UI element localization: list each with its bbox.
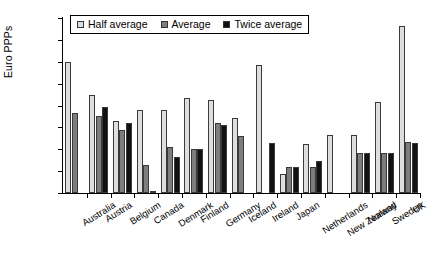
bar-finland-half-average — [184, 98, 190, 193]
bar-iceland-half-average — [232, 118, 238, 193]
bar-group — [184, 18, 203, 193]
bar-new-zealand-half-average — [327, 135, 333, 193]
x-axis-tick-mark — [420, 194, 421, 198]
x-axis-tick-mark — [253, 194, 254, 198]
bar-group — [161, 18, 180, 193]
bar-belgium-half-average — [113, 121, 119, 193]
x-axis-tick-mark — [158, 194, 159, 198]
bar-austria-twice-average — [102, 107, 108, 193]
bar-group — [232, 18, 251, 193]
average-swatch-icon — [161, 21, 168, 28]
bar-group — [327, 18, 346, 193]
bar-germany-average — [215, 123, 221, 193]
bar-uk-average — [405, 142, 411, 193]
half-average-swatch-icon — [77, 21, 84, 28]
bar-denmark-half-average — [161, 110, 167, 193]
bar-sweden-twice-average — [388, 153, 394, 193]
bar-group — [399, 18, 418, 193]
bar-canada-twice-average — [150, 191, 156, 193]
legend-label: Twice average — [234, 19, 302, 30]
x-axis-tick-mark — [349, 194, 350, 198]
x-axis-tick-mark — [396, 194, 397, 198]
bar-chart: Euro PPPs 0100200300400500600700800 Aust… — [0, 0, 432, 266]
legend-item-twice-average[interactable]: Twice average — [223, 19, 302, 30]
x-axis-line — [62, 193, 421, 194]
bar-finland-average — [191, 149, 197, 193]
bar-group — [256, 18, 275, 193]
bar-germany-twice-average — [221, 125, 227, 193]
x-axis-tick-mark — [325, 194, 326, 198]
chart-legend: Half averageAverageTwice average — [70, 15, 309, 34]
x-axis-tick-mark — [134, 194, 135, 198]
bar-australia-half-average — [65, 62, 71, 193]
bar-austria-half-average — [89, 95, 95, 193]
bar-austria-average — [96, 116, 102, 193]
plot-area — [63, 18, 420, 193]
bar-group — [208, 18, 227, 193]
bar-netherlands-twice-average — [316, 161, 322, 193]
bar-canada-average — [143, 165, 149, 193]
bar-denmark-twice-average — [174, 157, 180, 193]
y-axis-title: Euro PPPs — [2, 0, 16, 78]
x-axis-tick-mark — [277, 194, 278, 198]
bar-belgium-average — [119, 130, 125, 193]
bar-iceland-average — [238, 136, 244, 193]
x-axis-tick-mark — [301, 194, 302, 198]
bar-uk-half-average — [399, 26, 405, 193]
x-axis-tick-mark — [230, 194, 231, 198]
legend-label: Half average — [88, 19, 148, 30]
bar-japan-twice-average — [293, 167, 299, 193]
bar-group — [89, 18, 108, 193]
bar-group — [113, 18, 132, 193]
bar-ireland-twice-average — [269, 143, 275, 193]
bar-group — [375, 18, 394, 193]
bar-sweden-average — [381, 153, 387, 193]
x-axis-tick-mark — [206, 194, 207, 198]
x-axis-tick-mark — [372, 194, 373, 198]
bar-ireland-half-average — [256, 65, 262, 193]
legend-label: Average — [172, 19, 211, 30]
bar-norway-average — [357, 153, 363, 193]
bar-norway-half-average — [351, 135, 357, 193]
y-axis-tick-mark — [58, 193, 63, 194]
legend-item-half-average[interactable]: Half average — [77, 19, 148, 30]
bar-japan-half-average — [280, 174, 286, 193]
legend-item-average[interactable]: Average — [161, 19, 211, 30]
bar-group — [351, 18, 370, 193]
bar-netherlands-half-average — [303, 144, 309, 193]
bar-denmark-average — [167, 147, 173, 193]
bar-group — [280, 18, 299, 193]
x-axis-tick-mark — [182, 194, 183, 198]
x-axis-tick-mark — [111, 194, 112, 198]
bar-group — [137, 18, 156, 193]
bar-group — [65, 18, 84, 193]
bar-belgium-twice-average — [126, 123, 132, 193]
bar-germany-half-average — [208, 100, 214, 193]
bar-japan-average — [286, 167, 292, 193]
bar-finland-twice-average — [197, 149, 203, 193]
bar-uk-twice-average — [412, 143, 418, 193]
bar-norway-twice-average — [364, 153, 370, 193]
bar-group — [303, 18, 322, 193]
bar-australia-average — [72, 113, 78, 194]
bar-sweden-half-average — [375, 102, 381, 193]
x-axis-tick-mark — [87, 194, 88, 198]
bar-canada-half-average — [137, 110, 143, 193]
bar-netherlands-average — [310, 167, 316, 193]
twice-average-swatch-icon — [223, 21, 230, 28]
